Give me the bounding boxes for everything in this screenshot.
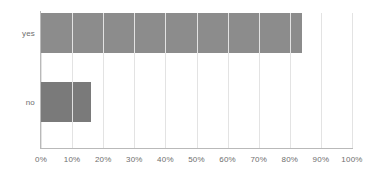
bar-seam bbox=[259, 13, 260, 53]
bar-seam bbox=[197, 13, 198, 53]
bar-seam bbox=[72, 13, 73, 53]
gridline-90 bbox=[321, 13, 322, 148]
x-tick-label-100: 100% bbox=[332, 155, 372, 164]
category-label-yes: yes bbox=[0, 29, 35, 38]
bar-seam bbox=[134, 13, 135, 53]
bar-seam bbox=[165, 13, 166, 53]
bar-seam bbox=[103, 13, 104, 53]
gridline-100 bbox=[352, 13, 353, 148]
bar-yes bbox=[41, 13, 302, 53]
bar-chart: yes no 0%10%20%30%40%50%60%70%80%90%100% bbox=[0, 0, 386, 182]
category-label-no: no bbox=[0, 98, 35, 107]
bar-seam bbox=[290, 13, 291, 53]
bar-no bbox=[41, 82, 91, 122]
bar-seam bbox=[72, 82, 73, 122]
x-axis-line bbox=[41, 148, 353, 149]
bar-seam bbox=[228, 13, 229, 53]
